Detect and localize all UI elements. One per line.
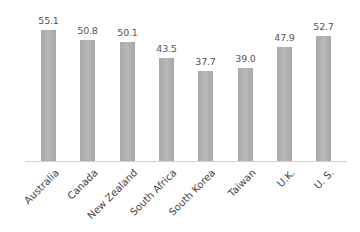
x-axis-line [25,161,347,162]
category-label: Canada [65,167,100,202]
bar [120,42,135,161]
category-label: U. S. [311,167,335,191]
value-label: 43.5 [147,43,187,54]
bar-chart: 55.1Australia50.8Canada50.1New Zealand43… [0,0,360,232]
bar [159,58,174,161]
value-label: 39.0 [226,53,266,64]
category-label: U.K. [274,167,296,189]
category-label: Taiwan [225,167,257,199]
value-label: 37.7 [186,56,226,67]
category-label: Australia [21,167,60,206]
bar [238,68,253,161]
value-label: 50.1 [108,27,148,38]
value-label: 52.7 [304,21,344,32]
bar [41,30,56,161]
bar [198,71,213,161]
bar [277,47,292,161]
value-label: 47.9 [265,32,305,43]
value-label: 50.8 [68,25,108,36]
bar [80,40,95,161]
bar [316,36,331,161]
value-label: 55.1 [29,15,69,26]
